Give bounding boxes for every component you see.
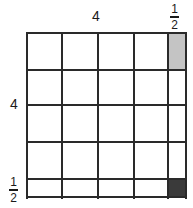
grid-vline (185, 32, 187, 199)
grid-vline (133, 32, 135, 199)
top-dimension-label: 4 (90, 9, 102, 23)
top-fraction-denominator: 2 (171, 19, 178, 31)
grid-hline (26, 104, 187, 106)
area-model-grid (26, 32, 186, 197)
top-fraction-label: 1 2 (170, 3, 179, 31)
grid-vline (167, 32, 169, 199)
grid-vline (61, 32, 63, 199)
left-fraction-label: 1 2 (9, 176, 18, 204)
grid-hline (26, 32, 187, 34)
grid-hline (26, 196, 187, 198)
top-fraction-numerator: 1 (171, 3, 178, 15)
left-fraction-numerator: 1 (10, 176, 17, 188)
grid-hline (26, 178, 187, 180)
grid-hline (26, 69, 187, 71)
grid-vline (97, 32, 99, 199)
left-fraction-denominator: 2 (10, 192, 17, 204)
grid-hline (26, 141, 187, 143)
left-dimension-label: 4 (8, 97, 20, 111)
grid-vline (26, 32, 28, 199)
shaded-cell-light (167, 32, 186, 69)
shaded-cell-dark (167, 178, 186, 197)
